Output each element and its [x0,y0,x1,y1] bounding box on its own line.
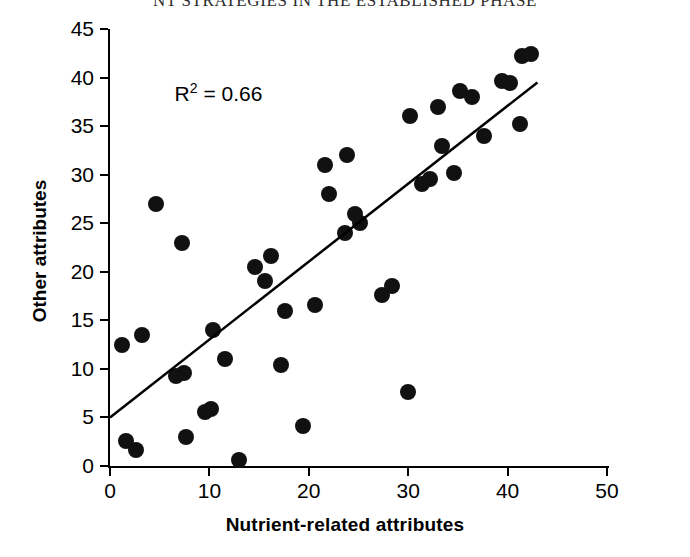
scatter-plot-figure: 05101520253035404501020304050 R2 = 0.66 … [0,0,690,557]
r-squared-annotation: R2 = 0.66 [175,80,263,106]
x-axis-title: Nutrient-related attributes [0,514,690,536]
y-axis-title: Other attributes [29,151,51,351]
regression-line [110,82,537,417]
trendline-svg [0,0,690,557]
